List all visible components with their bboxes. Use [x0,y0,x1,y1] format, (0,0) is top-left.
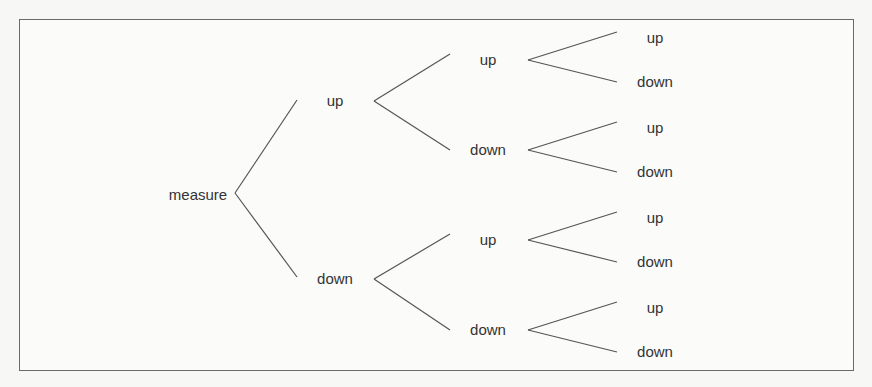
tree-branch [528,32,617,60]
tree-node-label: down [637,163,673,180]
tree-branch [528,150,617,172]
tree-node-label: up [647,299,664,316]
tree-branch [528,240,617,262]
tree-branch [528,302,617,330]
tree-branch [374,101,450,150]
tree-branch [374,234,450,279]
tree-node-label: down [317,270,353,287]
tree-node-label: down [470,141,506,158]
tree-branch [528,330,617,352]
tree-branch [528,122,617,150]
tree-node-label: up [480,51,497,68]
tree-branch [235,193,297,277]
tree-branch [374,279,450,330]
tree-branch [528,212,617,240]
tree-branch [374,54,450,101]
tree-branch [235,100,297,193]
tree-diagram [0,0,872,387]
tree-node-label: measure [169,186,227,203]
tree-node-label: up [647,119,664,136]
tree-node-label: up [480,231,497,248]
tree-node-label: down [470,321,506,338]
tree-branch [528,60,617,82]
tree-node-label: down [637,253,673,270]
tree-node-label: down [637,343,673,360]
tree-node-label: up [647,29,664,46]
tree-node-label: up [647,209,664,226]
tree-node-label: down [637,73,673,90]
tree-node-label: up [327,92,344,109]
